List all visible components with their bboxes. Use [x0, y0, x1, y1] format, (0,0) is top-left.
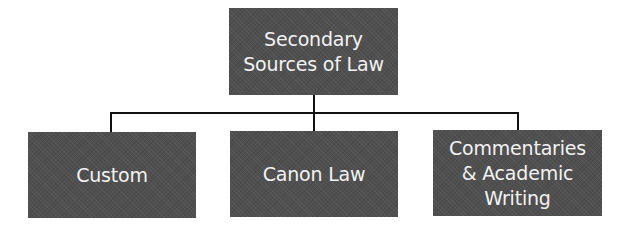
child-node-custom: Custom [28, 132, 196, 218]
commentaries-label-line2: & Academic [462, 161, 574, 186]
child-node-commentaries: Commentaries & Academic Writing [433, 130, 602, 216]
root-label-line2: Sources of Law [243, 52, 384, 77]
connector-to-commentaries [517, 112, 519, 131]
root-label-line1: Secondary [264, 27, 363, 52]
commentaries-label-line1: Commentaries [449, 136, 586, 161]
child-node-canon-law: Canon Law [230, 131, 398, 217]
commentaries-label-line3: Writing [484, 186, 550, 211]
root-node-secondary-sources: Secondary Sources of Law [229, 8, 398, 95]
connector-to-custom [110, 112, 112, 132]
connector-to-canon-law [313, 112, 315, 132]
custom-label: Custom [76, 163, 148, 188]
canon-law-label: Canon Law [263, 162, 366, 187]
